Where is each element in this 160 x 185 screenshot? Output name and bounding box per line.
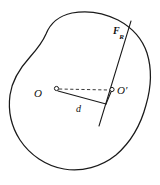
label-distance-d: d — [76, 104, 81, 114]
label-resultant-force: FR — [113, 26, 124, 39]
point-o-marker — [54, 86, 58, 90]
label-point-o-prime-base: O — [117, 84, 125, 96]
label-point-o-prime: O′ — [117, 85, 127, 96]
label-point-o: O — [34, 88, 42, 99]
body-outline-path — [9, 12, 150, 170]
moment-arm-line — [58, 91, 106, 104]
centroid-link-dashed — [59, 89, 109, 90]
point-o-prime-marker — [110, 87, 114, 91]
diagram-canvas — [0, 0, 160, 185]
figure-container: O O′ d FR — [0, 0, 160, 185]
label-force-subscript: R — [119, 33, 124, 41]
label-point-o-prime-mark: ′ — [125, 84, 127, 96]
